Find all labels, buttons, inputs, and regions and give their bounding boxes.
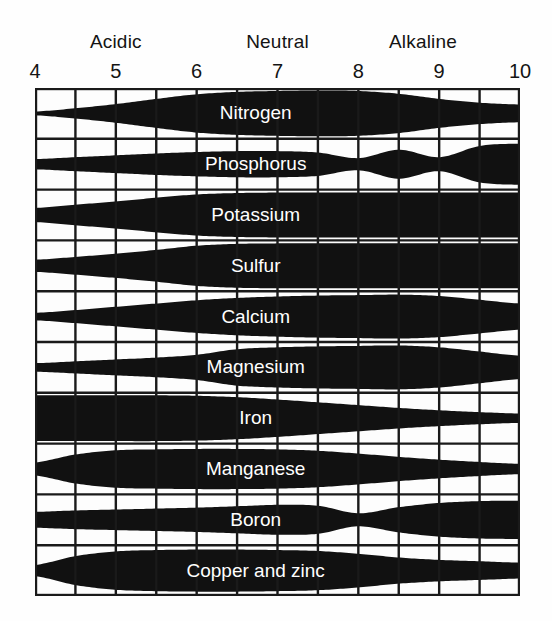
axis-tick-9: 9 [419,58,459,84]
ph-zone-label-alkaline: Alkaline [343,30,503,54]
axis-tick-4: 4 [15,58,55,84]
axis-tick-10: 10 [500,58,540,84]
axis-tick-6: 6 [177,58,217,84]
ph-zone-label-row: AcidicNeutralAlkaline [0,30,552,54]
axis-tick-5: 5 [96,58,136,84]
nutrient-availability-chart: AcidicNeutralAlkaline 45678910 NitrogenP… [0,0,552,621]
ph-axis-tick-row: 45678910 [0,58,552,84]
axis-tick-8: 8 [338,58,378,84]
chart-plot-area: NitrogenPhosphorusPotassiumSulfurCalcium… [35,88,520,596]
axis-tick-7: 7 [258,58,298,84]
ph-zone-label-acidic: Acidic [36,30,196,54]
ph-zone-label-neutral: Neutral [198,30,358,54]
availability-bands-svg: NitrogenPhosphorusPotassiumSulfurCalcium… [35,88,520,596]
